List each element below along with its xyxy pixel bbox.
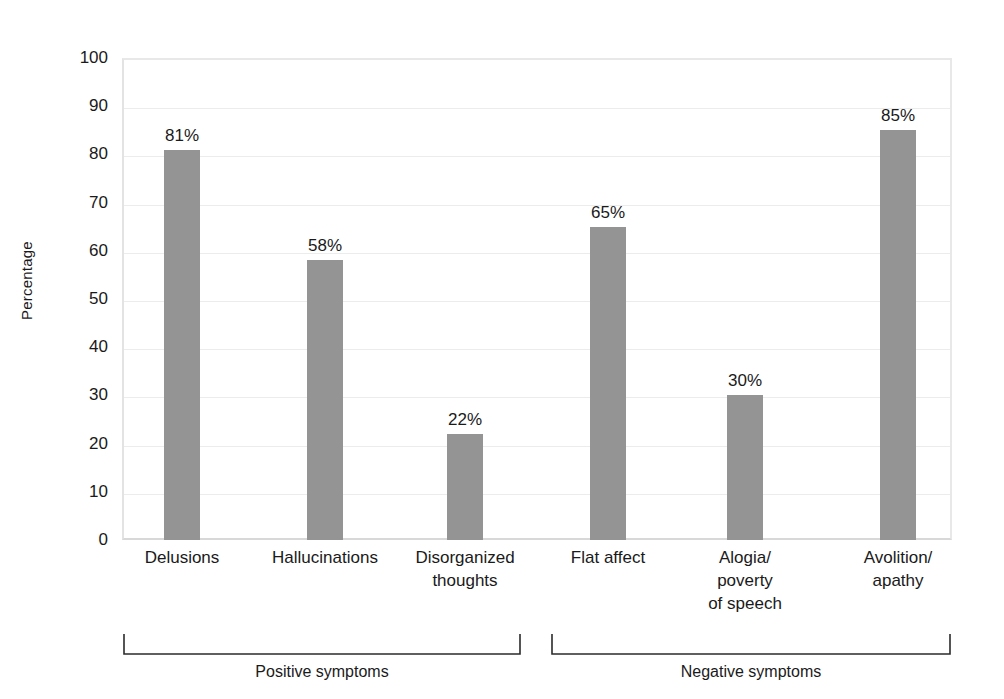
x-label-avolition: Avolition/ apathy [818,546,978,592]
bar-group-flat-affect[interactable]: 65% [539,58,677,540]
bar-value-label: 58% [308,236,342,256]
bar-rect[interactable] [164,150,200,540]
x-label-line: apathy [818,569,978,592]
x-label-alogia: Alogia/ poverty of speech [665,546,825,615]
y-axis-title: Percentage [18,221,35,341]
y-axis-tick-labels: 100 90 80 70 60 50 40 30 20 10 0 [46,58,108,540]
x-label-line: Disorganized [385,546,545,569]
bar-group-avolition[interactable]: 85% [829,58,967,540]
x-label-line: Flat affect [528,546,688,569]
bar-chart: Percentage 100 90 80 70 60 50 40 30 20 1… [0,0,1004,699]
y-tick-20: 20 [46,434,108,454]
bar-group-delusions[interactable]: 81% [113,58,251,540]
x-label-line: Alogia/ [665,546,825,569]
bar-group-disorganized-thoughts[interactable]: 22% [396,58,534,540]
y-tick-80: 80 [46,144,108,164]
bar-rect[interactable] [880,130,916,540]
bar-value-label: 30% [728,371,762,391]
y-tick-90: 90 [46,96,108,116]
x-label-line: Avolition/ [818,546,978,569]
bar-rect[interactable] [590,227,626,540]
x-label-disorganized-thoughts: Disorganized thoughts [385,546,545,592]
y-tick-60: 60 [46,241,108,261]
x-label-delusions: Delusions [102,546,262,569]
x-label-hallucinations: Hallucinations [245,546,405,569]
x-label-line: Delusions [102,546,262,569]
x-label-flat-affect: Flat affect [528,546,688,569]
bar-group-hallucinations[interactable]: 58% [256,58,394,540]
x-label-line: thoughts [385,569,545,592]
y-tick-70: 70 [46,193,108,213]
y-tick-0: 0 [46,530,108,550]
bar-value-label: 85% [881,106,915,126]
group-label-negative-symptoms: Negative symptoms [671,663,831,681]
bar-value-label: 22% [448,410,482,430]
group-label-positive-symptoms: Positive symptoms [242,663,402,681]
bar-rect[interactable] [447,434,483,540]
x-label-line: Hallucinations [245,546,405,569]
y-tick-10: 10 [46,482,108,502]
bar-rect[interactable] [727,395,763,540]
x-label-line: poverty [665,569,825,592]
y-tick-50: 50 [46,289,108,309]
y-tick-40: 40 [46,337,108,357]
y-tick-30: 30 [46,385,108,405]
y-tick-100: 100 [46,48,108,68]
bars-layer: 81% 58% 22% 65% 30% 85% [122,58,952,540]
bar-rect[interactable] [307,260,343,540]
x-label-line: of speech [665,592,825,615]
bar-value-label: 81% [165,126,199,146]
bar-group-alogia[interactable]: 30% [676,58,814,540]
bar-value-label: 65% [591,203,625,223]
x-axis-category-labels: Delusions Hallucinations Disorganized th… [122,546,952,642]
